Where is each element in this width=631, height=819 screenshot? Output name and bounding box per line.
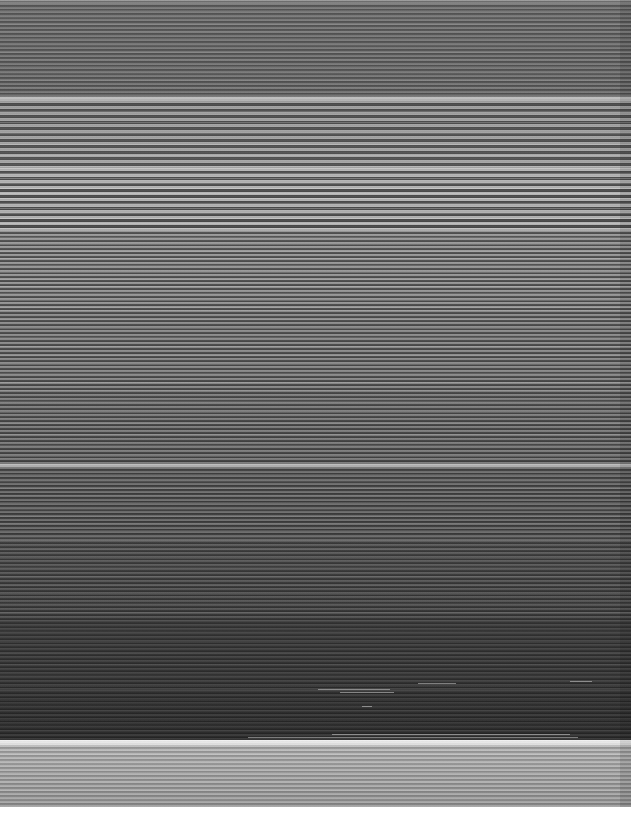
scanline-overlay-coarse [0, 620, 631, 690]
separator-taskbar-highlight [0, 740, 631, 745]
scanline-overlay-coarse [0, 230, 631, 310]
bright-fragment [340, 692, 394, 693]
scanline-overlay-coarse [0, 100, 631, 168]
scanline-overlay-coarse [0, 745, 631, 807]
scanline-overlay-coarse [0, 390, 631, 464]
corrupted-content-area [0, 0, 631, 807]
scan-band-taskbar-smear [0, 745, 631, 807]
bright-fragment [248, 737, 578, 738]
scanline-overlay-coarse [0, 467, 631, 540]
scrollbar-smear[interactable] [620, 0, 631, 807]
scanline-overlay-coarse [0, 540, 631, 620]
scan-band-darkening-field-1 [0, 467, 631, 540]
scanline-overlay-coarse [0, 168, 631, 230]
scanline-overlay-coarse [0, 690, 631, 740]
scan-band-dense-scan-upper [0, 230, 631, 310]
scan-band-bright-banding-2 [0, 168, 631, 230]
bright-fragment [418, 683, 456, 684]
bottom-white-margin [0, 807, 631, 819]
scan-band-dense-scan-mid [0, 310, 631, 390]
bright-fragment [318, 689, 390, 690]
separator-separator-upper [0, 97, 631, 100]
scan-band-upper-gray-field [0, 3, 631, 97]
scan-band-darkest-field [0, 690, 631, 740]
screenshot-root [0, 0, 631, 819]
scan-band-dense-scan-lower [0, 390, 631, 464]
bright-fragment [570, 681, 592, 682]
scanline-overlay-coarse [0, 3, 631, 97]
scanline-overlay-coarse [0, 310, 631, 390]
scan-band-bright-banding-1 [0, 100, 631, 168]
separator-separator-mid [0, 464, 631, 467]
bright-fragment [332, 734, 570, 735]
bright-fragment [362, 706, 372, 707]
scan-band-darkening-field-2 [0, 540, 631, 620]
scan-band-dark-field [0, 620, 631, 690]
